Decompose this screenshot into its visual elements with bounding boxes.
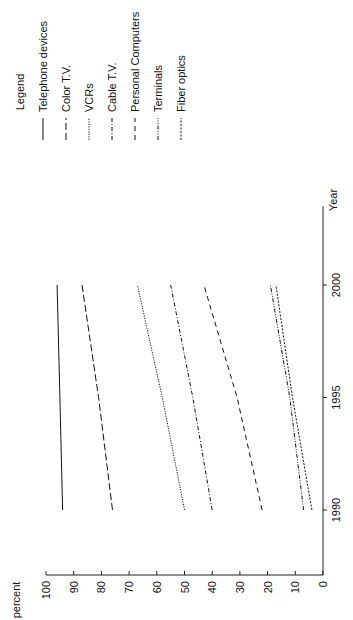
percent-tick-label: 90	[68, 581, 80, 593]
percent-tick-label: 60	[151, 581, 163, 593]
legend-item-label: VCRs	[83, 83, 95, 112]
percent-tick-label: 70	[123, 581, 135, 593]
y-axis-label: percent	[10, 582, 22, 619]
series-line	[137, 285, 184, 510]
series-line	[276, 285, 312, 510]
chart-page: 0102030405060708090100199019952000percen…	[0, 0, 353, 620]
series-line	[82, 285, 113, 510]
percent-tick-label: 100	[40, 581, 52, 599]
percent-tick-label: 40	[206, 581, 218, 593]
percent-tick-label: 50	[179, 581, 191, 593]
percent-tick-label: 0	[317, 581, 329, 587]
legend-item-label: Terminals	[152, 64, 164, 112]
series-line	[57, 285, 63, 510]
series-line	[270, 285, 303, 510]
year-tick-label: 1990	[330, 498, 342, 522]
legend-item-label: Personal Computers	[129, 11, 141, 112]
percent-tick-label: 20	[262, 581, 274, 593]
legend-item-label: Fiber optics	[175, 55, 187, 112]
legend-title: Legend	[14, 74, 26, 111]
series-line	[171, 285, 213, 510]
series-line	[204, 285, 262, 510]
line-chart: 0102030405060708090100199019952000percen…	[0, 0, 353, 620]
legend: LegendTelephone devicesColor T.V.VCRsCab…	[14, 11, 187, 140]
year-tick-label: 2000	[330, 273, 342, 297]
percent-tick-label: 80	[95, 581, 107, 593]
percent-tick-label: 30	[234, 581, 246, 593]
legend-item-label: Color T.V.	[60, 65, 72, 112]
percent-tick-label: 10	[289, 581, 301, 593]
legend-item-label: Telephone devices	[37, 20, 49, 112]
year-tick-label: 1995	[330, 385, 342, 409]
legend-item-label: Cable T.V.	[106, 62, 118, 112]
x-axis-label: Year	[327, 189, 339, 212]
